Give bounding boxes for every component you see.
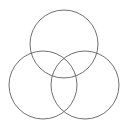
circle-right [51, 51, 119, 119]
venn-diagram [0, 0, 128, 131]
circle-top [30, 10, 98, 78]
circle-left [9, 51, 77, 119]
